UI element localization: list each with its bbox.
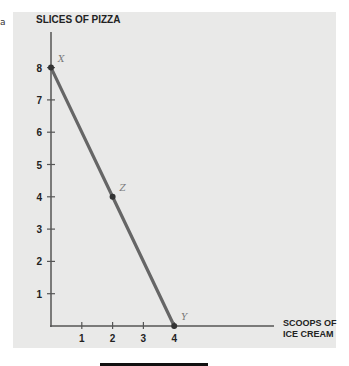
svg-text:ICE CREAM: ICE CREAM <box>283 329 334 339</box>
labeled-points: XZY <box>48 54 188 329</box>
y-tick-label: 8 <box>36 63 42 74</box>
point-z-label: Z <box>119 183 127 193</box>
point-x-marker <box>48 65 54 71</box>
x-axis-title: SCOOPS OF ICE CREAM <box>283 318 337 339</box>
y-tick-label: 5 <box>36 160 42 171</box>
y-tick-label: 1 <box>36 289 42 300</box>
y-tick-label: 6 <box>36 127 42 138</box>
x-tick-label: 3 <box>141 333 147 344</box>
point-z-marker <box>110 194 116 200</box>
y-axis-ticks: 12345678 <box>36 63 55 300</box>
y-tick-label: 3 <box>36 224 42 235</box>
y-tick-label: 7 <box>36 95 42 106</box>
y-axis-title: SLICES OF PIZZA <box>36 14 120 25</box>
y-tick-label: 4 <box>36 192 42 203</box>
svg-text:SCOOPS OF: SCOOPS OF <box>283 318 337 328</box>
y-tick-label: 2 <box>36 256 42 267</box>
x-tick-label: 2 <box>110 333 116 344</box>
point-x-label: X <box>57 54 65 64</box>
x-tick-label: 1 <box>79 333 85 344</box>
ppf-chart: SLICES OF PIZZA 12345678 1234 XZY SCOOPS… <box>0 0 349 366</box>
x-tick-label: 4 <box>171 333 177 344</box>
svg-text:SLICES OF PIZZA: SLICES OF PIZZA <box>36 14 120 25</box>
point-y-label: Y <box>181 312 188 322</box>
point-y-marker <box>171 323 177 329</box>
